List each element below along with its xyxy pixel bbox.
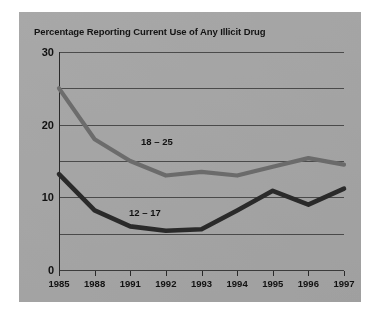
x-tick-label-1997: 1997 (333, 278, 354, 289)
x-tick-1993 (202, 271, 203, 276)
x-tick-1991 (130, 271, 131, 276)
x-tick-label-1991: 1991 (120, 278, 141, 289)
x-axis-ticks (59, 271, 344, 277)
chart-figure-panel: Percentage Reporting Current Use of Any … (19, 12, 361, 302)
x-tick-label-1993: 1993 (191, 278, 212, 289)
chart-series-layer (59, 52, 344, 270)
y-tick-label-20: 20 (42, 119, 54, 131)
y-axis-tick-labels: 3020100 (19, 52, 54, 270)
series-label-12-17: 12 – 17 (129, 207, 161, 218)
y-tick-label-30: 30 (42, 46, 54, 58)
x-tick-1995 (273, 271, 274, 276)
x-tick-label-1985: 1985 (48, 278, 69, 289)
x-tick-1996 (308, 271, 309, 276)
x-axis-tick-labels: 198519881991199219931994199519961997 (59, 278, 344, 294)
series-line-1217 (59, 174, 344, 231)
x-tick-label-1988: 1988 (84, 278, 105, 289)
y-tick-label-10: 10 (42, 191, 54, 203)
x-tick-1985 (59, 271, 60, 276)
x-tick-1992 (166, 271, 167, 276)
x-tick-label-1995: 1995 (262, 278, 283, 289)
x-tick-1994 (237, 271, 238, 276)
y-tick-label-0: 0 (48, 264, 54, 276)
series-line-1825 (59, 88, 344, 175)
x-tick-1997 (344, 271, 345, 276)
series-label-18-25: 18 – 25 (141, 136, 173, 147)
x-tick-label-1992: 1992 (155, 278, 176, 289)
x-tick-label-1996: 1996 (298, 278, 319, 289)
x-tick-1988 (95, 271, 96, 276)
chart-title: Percentage Reporting Current Use of Any … (34, 26, 265, 37)
x-tick-label-1994: 1994 (227, 278, 248, 289)
